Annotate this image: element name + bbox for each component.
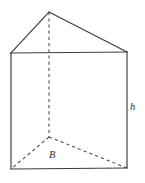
prism-figure: h B — [0, 0, 145, 183]
edge-front-bottom — [11, 168, 127, 169]
hidden-edge-base-right — [49, 137, 127, 168]
hidden-edge-base-left — [11, 137, 49, 169]
edge-top-left-slope — [11, 12, 49, 53]
base-label: B — [49, 150, 55, 161]
edge-front-top — [11, 52, 127, 53]
prism-drawing — [0, 0, 145, 183]
edge-top-right-slope — [49, 12, 127, 52]
height-label: h — [130, 102, 135, 113]
